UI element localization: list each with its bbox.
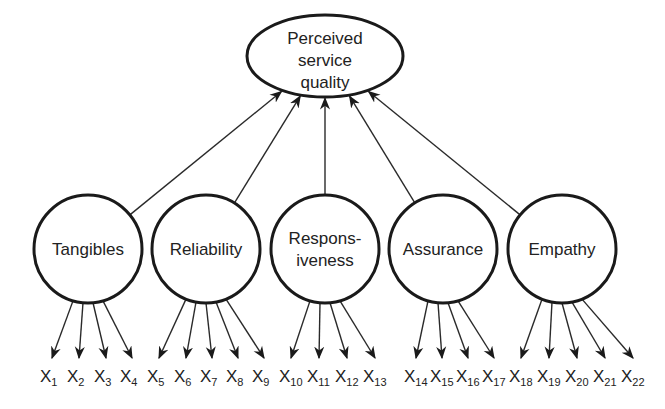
edge-responsiveness-to-x13 xyxy=(340,301,375,358)
edge-empathy-to-x21 xyxy=(572,302,605,358)
edge-responsiveness-to-x12 xyxy=(330,303,347,358)
edge-tangibles-to-x2 xyxy=(79,303,83,358)
edge-assurance-to-x17 xyxy=(458,301,494,358)
item-label-x2: X2 xyxy=(67,367,84,388)
item-label-x1: X1 xyxy=(40,367,57,388)
edge-assurance-to-x14 xyxy=(416,301,428,358)
tangibles-label: Tangibles xyxy=(52,240,124,259)
edge-tangibles-to-x3 xyxy=(93,303,106,358)
item-label-x13: X13 xyxy=(363,367,387,388)
item-label-x14: X14 xyxy=(404,367,428,388)
edge-responsiveness-to-x11 xyxy=(319,303,320,358)
edge-responsiveness-to-x10 xyxy=(291,301,310,358)
responsiveness-label: iveness xyxy=(296,251,354,270)
assurance-label: Assurance xyxy=(403,240,483,259)
item-label-x7: X7 xyxy=(200,367,217,388)
item-label-x5: X5 xyxy=(147,367,164,388)
edge-empathy-to-x22 xyxy=(582,299,633,358)
reliability-label: Reliability xyxy=(170,240,243,259)
root-label-line: quality xyxy=(300,73,350,92)
edge-reliability-to-x9 xyxy=(226,299,264,358)
item-label-x21: X21 xyxy=(593,367,617,388)
edge-reliability-to-x6 xyxy=(186,302,196,358)
item-label-x15: X15 xyxy=(430,367,454,388)
item-label-x16: X16 xyxy=(456,367,480,388)
item-label-x10: X10 xyxy=(279,367,303,388)
item-label-x17: X17 xyxy=(482,367,506,388)
edge-assurance-to-root xyxy=(350,96,415,203)
item-label-x19: X19 xyxy=(537,367,561,388)
servqual-diagram: PerceivedservicequalityTangiblesReliabil… xyxy=(0,0,665,409)
edge-reliability-to-root xyxy=(234,96,300,203)
empathy-label: Empathy xyxy=(528,240,596,259)
item-label-x8: X8 xyxy=(226,367,243,388)
item-label-x22: X22 xyxy=(621,367,645,388)
edge-assurance-to-x15 xyxy=(438,303,442,358)
item-label-x9: X9 xyxy=(252,367,269,388)
edge-empathy-to-x19 xyxy=(549,302,552,358)
item-label-x4: X4 xyxy=(120,367,137,388)
item-label-x3: X3 xyxy=(94,367,111,388)
root-label-line: service xyxy=(298,51,352,70)
item-label-x6: X6 xyxy=(174,367,191,388)
dimension-node-tangibles: Tangibles xyxy=(34,195,142,303)
item-label-x20: X20 xyxy=(565,367,589,388)
root-node-perceived-service-quality: Perceivedservicequality xyxy=(247,15,403,97)
responsiveness-circle xyxy=(271,195,379,303)
item-label-x18: X18 xyxy=(509,367,533,388)
item-label-x11: X11 xyxy=(307,367,330,388)
dimension-node-empathy: Empathy xyxy=(508,195,616,303)
edge-empathy-to-x20 xyxy=(562,303,577,358)
dimension-node-assurance: Assurance xyxy=(389,195,497,303)
dimension-node-reliability: Reliability xyxy=(152,195,260,303)
edge-reliability-to-x7 xyxy=(206,303,212,358)
dimension-node-responsiveness: Respons-iveness xyxy=(271,195,379,303)
edge-tangibles-to-x4 xyxy=(103,301,132,358)
edge-reliability-to-x8 xyxy=(216,302,238,358)
edge-empathy-to-x18 xyxy=(521,299,542,358)
root-label-line: Perceived xyxy=(287,29,363,48)
edge-reliability-to-x5 xyxy=(159,299,186,358)
responsiveness-label: Respons- xyxy=(289,229,362,248)
item-label-x12: X12 xyxy=(335,367,359,388)
edge-tangibles-to-x1 xyxy=(52,301,73,358)
